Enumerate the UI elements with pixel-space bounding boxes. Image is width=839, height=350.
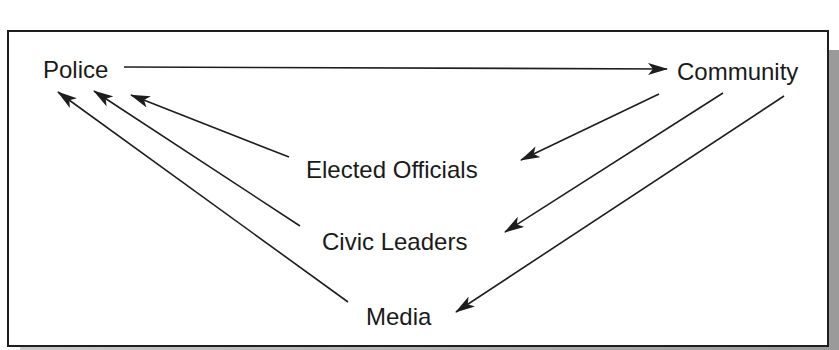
arrow-community-to-media	[456, 96, 784, 312]
arrow-police-to-community	[124, 67, 667, 69]
node-elected-officials: Elected Officials	[306, 158, 478, 182]
arrow-elected-officials-to-police	[131, 95, 289, 157]
node-civic-leaders: Civic Leaders	[322, 230, 467, 254]
node-community: Community	[677, 60, 798, 84]
arrow-civic-leaders-to-police	[94, 91, 300, 226]
node-police: Police	[43, 58, 108, 82]
arrow-community-to-elected-officials	[521, 94, 659, 160]
node-media: Media	[366, 305, 431, 329]
arrow-community-to-civic-leaders	[505, 93, 723, 232]
